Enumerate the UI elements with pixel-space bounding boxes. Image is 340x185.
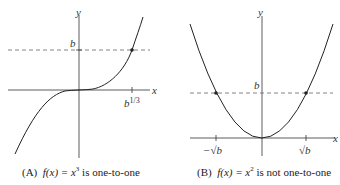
panel-b-parabola-curve [190, 24, 333, 138]
panel-b-x-label: x [332, 132, 338, 144]
panel-b-caption-suffix: is not one-to-one [254, 166, 331, 178]
panel-a-graph: y x b b1/3 [8, 6, 157, 158]
panel-a-caption-prefix: (A) [22, 166, 37, 178]
panel-b-intersection-left [214, 91, 218, 95]
panel-a-x-label: x [151, 84, 157, 96]
panel-b-caption-prefix: (B) [197, 166, 212, 178]
panel-b-caption-function: f(x) = x [217, 166, 250, 178]
panel-b-y-tick-label: b [254, 79, 260, 91]
panel-b-caption: (B) f(x) = x2 is not one-to-one [197, 165, 331, 178]
panel-a-x-tick-label: b1/3 [124, 96, 140, 109]
panel-b-x-tick-label-left: −√b [203, 144, 222, 156]
panel-b-x-tick-label-right: √b [299, 144, 311, 156]
panel-a-y-label: y [75, 6, 81, 18]
panel-a-caption-function: f(x) = x [43, 166, 76, 178]
panel-b-y-label: y [257, 6, 263, 18]
panel-b-intersection-right [304, 91, 308, 95]
figure: y x b b1/3 y x b −√b √b [0, 0, 340, 185]
panel-a-intersection-point [130, 48, 134, 52]
panel-a-caption: (A) f(x) = x3 is one-to-one [22, 165, 140, 178]
panel-b-graph: y x b −√b √b [190, 6, 338, 156]
panel-a-y-tick-label: b [70, 37, 76, 49]
panel-a-caption-suffix: is one-to-one [79, 166, 139, 178]
